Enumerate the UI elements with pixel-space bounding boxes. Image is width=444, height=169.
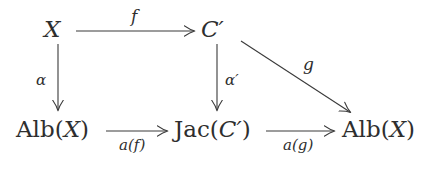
node-bottom-middle-functor: Jac bbox=[174, 116, 210, 142]
alpha-prime-mark: ′ bbox=[235, 71, 238, 89]
node-bottom-right-functor: Alb bbox=[342, 116, 381, 142]
arrow-label-alpha: α bbox=[36, 73, 46, 88]
node-top-middle-base: C bbox=[201, 16, 219, 42]
node-bottom-left-arg: X bbox=[64, 116, 80, 142]
arrow-label-a-of-f: a(f) bbox=[119, 138, 145, 153]
node-bottom-middle-arg: C bbox=[219, 116, 237, 142]
paren-close-icon: ) bbox=[406, 116, 415, 142]
paren-open-icon: ( bbox=[381, 116, 390, 142]
alpha-prime-base: α bbox=[225, 71, 235, 89]
commutative-diagram: X C′ Alb(X) Jac(C′) Alb(X) f g α α′ a(f)… bbox=[0, 0, 444, 169]
arrow-label-a-of-g: a(g) bbox=[283, 138, 313, 153]
node-bottom-left-functor: Alb bbox=[16, 116, 55, 142]
paren-close-icon: ) bbox=[242, 116, 251, 142]
paren-open-icon: ( bbox=[55, 116, 64, 142]
a-of-g-arg: g bbox=[298, 136, 308, 154]
node-bottom-right: Alb(X) bbox=[342, 118, 415, 141]
paren-close-icon: ) bbox=[307, 136, 313, 154]
node-bottom-left: Alb(X) bbox=[16, 118, 89, 141]
node-top-middle-prime: ′ bbox=[219, 16, 224, 42]
paren-close-icon: ) bbox=[139, 136, 145, 154]
node-top-left-label: X bbox=[44, 16, 60, 42]
arrow-label-alpha-prime: α′ bbox=[225, 73, 239, 88]
node-bottom-middle: Jac(C′) bbox=[174, 118, 251, 141]
node-top-middle: C′ bbox=[201, 18, 224, 41]
paren-close-icon: ) bbox=[80, 116, 89, 142]
arrow-label-f: f bbox=[131, 8, 137, 25]
a-of-g-fn: a bbox=[283, 136, 292, 154]
paren-open-icon: ( bbox=[210, 116, 219, 142]
node-bottom-right-arg: X bbox=[390, 116, 406, 142]
arrow-label-g: g bbox=[303, 56, 314, 73]
a-of-f-fn: a bbox=[119, 136, 128, 154]
node-top-left: X bbox=[44, 18, 60, 41]
arrow-g bbox=[241, 41, 350, 112]
